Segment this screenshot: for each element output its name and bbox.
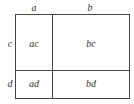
outer-left-edge — [15, 14, 16, 99]
horizontal-divider — [15, 70, 130, 71]
cell-ac: ac — [29, 39, 38, 49]
outer-right-edge — [129, 14, 130, 99]
outer-top-edge — [15, 14, 130, 15]
outer-bottom-edge — [15, 98, 130, 99]
side-label-d: d — [8, 79, 13, 89]
top-label-b: b — [88, 3, 93, 13]
top-label-a: a — [32, 3, 37, 13]
vertical-divider — [52, 14, 53, 99]
side-label-c: c — [8, 39, 12, 49]
cell-bc: bc — [86, 39, 95, 49]
cell-bd: bd — [86, 79, 96, 89]
cell-ad: ad — [29, 79, 39, 89]
